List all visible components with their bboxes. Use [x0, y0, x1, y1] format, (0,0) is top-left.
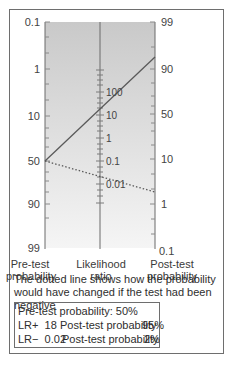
- right-tick-label: 50: [161, 108, 173, 120]
- lr-positive-value: LR+ 18: [18, 318, 60, 332]
- right-axis-title-line1: Post-test: [145, 258, 199, 270]
- middle-tick-label: 100: [106, 87, 123, 98]
- middle-axis-title-line1: Likelihood: [74, 258, 128, 270]
- left-axis-title-line1: Pre-test: [6, 258, 54, 270]
- middle-tick-label: 0.1: [106, 156, 120, 167]
- left-tick-label: 10: [28, 110, 40, 122]
- right-tick-label: 0.1: [159, 245, 174, 257]
- right-tick-label: 10: [161, 153, 173, 165]
- summary-row-positive: LR+ 18 Post-test probability 95%: [18, 318, 156, 332]
- right-tick-label: 90: [161, 63, 173, 75]
- summary-box: Pre-test probability: 50% LR+ 18 Post-te…: [14, 302, 160, 348]
- posttest-positive-value: 95%: [142, 318, 156, 332]
- middle-tick-label: 0.01: [106, 179, 126, 190]
- summary-row-negative: LR− 0.02 Post-test probability 2%: [18, 332, 156, 346]
- middle-tick-label: 10: [106, 110, 118, 121]
- lr-negative-value: LR− 0.02: [18, 332, 62, 346]
- left-tick-label: 90: [28, 198, 40, 210]
- left-tick-label: 0.1: [25, 16, 40, 28]
- left-tick-label: 1: [34, 63, 40, 75]
- left-tick-label: 99: [28, 242, 40, 254]
- posttest-label: Post-test probability: [62, 332, 144, 346]
- summary-pretest: Pre-test probability: 50%: [18, 304, 156, 318]
- posttest-label: Post-test probability: [60, 318, 142, 332]
- pretest-probability-text: Pre-test probability: 50%: [18, 304, 138, 318]
- posttest-negative-value: 2%: [144, 332, 158, 346]
- left-tick-label: 50: [28, 155, 40, 167]
- right-tick-label: 1: [161, 198, 167, 210]
- right-tick-label: 99: [161, 16, 173, 28]
- middle-tick-label: 1: [106, 133, 112, 144]
